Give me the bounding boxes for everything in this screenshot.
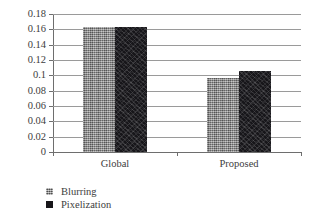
y-axis-tick <box>49 121 53 122</box>
y-axis-tick <box>49 106 53 107</box>
y-axis-tick-label: 0.14 <box>0 40 46 50</box>
legend-label: Blurring <box>61 186 97 197</box>
legend-label: Pixelization <box>61 199 111 210</box>
y-axis-tick <box>49 75 53 76</box>
bar-global-blurring <box>83 27 115 152</box>
y-axis-tick-label: 0.04 <box>0 116 46 126</box>
y-axis-tick-label: 0.06 <box>0 101 46 111</box>
legend-swatch-blurring-icon <box>46 188 53 195</box>
x-axis-tick <box>301 152 302 156</box>
y-axis-tick-label: 0.02 <box>0 132 46 142</box>
y-axis-tick-label: 0.18 <box>0 9 46 19</box>
bar-chart-figure: 00.020.040.060.080.10.120.140.160.18 Glo… <box>0 0 314 215</box>
y-axis-tick <box>49 137 53 138</box>
legend-swatch-pixelization-icon <box>46 201 53 208</box>
y-axis-tick-label: 0.12 <box>0 55 46 65</box>
x-axis-tick-origin <box>53 152 54 156</box>
x-axis-tick <box>177 152 178 156</box>
y-axis-tick-label: 0.1 <box>0 70 46 80</box>
gridline <box>53 14 301 15</box>
legend-item-pixelization: Pixelization <box>46 198 111 211</box>
y-axis-tick <box>49 45 53 46</box>
y-axis-tick-label: 0.08 <box>0 86 46 96</box>
x-axis-category-label-global: Global <box>53 158 177 170</box>
bar-proposed-pixelization <box>239 71 271 152</box>
y-axis-tick-label: 0 <box>0 147 46 157</box>
y-axis-tick <box>49 29 53 30</box>
y-axis-tick <box>49 60 53 61</box>
y-axis-tick <box>49 91 53 92</box>
bar-global-pixelization <box>115 27 147 152</box>
y-axis-tick <box>49 14 53 15</box>
y-axis-tick-label: 0.16 <box>0 24 46 34</box>
y-axis-line <box>53 14 54 152</box>
bar-proposed-blurring <box>207 78 239 152</box>
chart-legend: BlurringPixelization <box>46 185 111 211</box>
x-axis-category-label-proposed: Proposed <box>177 158 301 170</box>
legend-item-blurring: Blurring <box>46 185 111 198</box>
